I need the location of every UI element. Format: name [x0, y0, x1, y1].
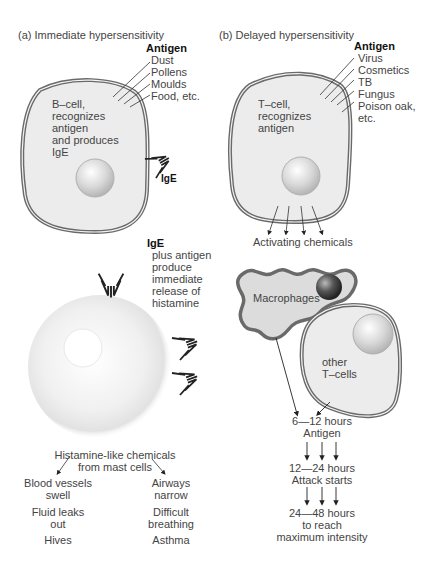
t-cell-label-line: T–cell, — [258, 98, 311, 110]
ige-antibody-icon — [172, 365, 201, 395]
panel-a-title: (a) Immediate hypersensitivity — [18, 29, 164, 41]
antigen-item: Moulds — [151, 78, 200, 90]
timeline-line: Attack starts — [262, 474, 382, 486]
antigen-list-b: Virus Cosmetics TB Fungus Poison oak, et… — [358, 52, 415, 124]
b-cell-label-line: recognizes — [52, 110, 119, 122]
antigen-item: Food, etc. — [151, 90, 200, 102]
antigen-heading-b: Antigen — [354, 40, 395, 52]
effect-line: breathing — [141, 518, 201, 530]
timeline-line: to reach — [262, 519, 382, 531]
timeline-line: 24—48 hours — [262, 507, 382, 519]
histamine-source-line: from mast cells — [40, 461, 190, 473]
mast-cell — [28, 295, 172, 439]
timeline-stage-3: 24—48 hours to reach maximum intensity — [262, 507, 382, 543]
b-cell-label: B–cell, recognizes antigen and produces … — [52, 98, 119, 158]
ige-heading: IgE — [147, 237, 164, 249]
antigen-item: TB — [358, 76, 415, 88]
antigen-item: Fungus — [358, 88, 415, 100]
effect-line: narrow — [141, 489, 201, 501]
other-t-cells-line: T–cells — [322, 368, 357, 380]
ige-description-line: immediate — [152, 273, 211, 285]
antigen-heading-a: Antigen — [146, 42, 187, 54]
b-cell-label-line: B–cell, — [52, 98, 119, 110]
b-cell-label-line: IgE — [52, 146, 119, 158]
effect-line: Asthma — [141, 534, 201, 546]
timeline-line: Antigen — [262, 427, 382, 439]
effect-line: Airways — [141, 477, 201, 489]
antigen-item: Dust — [151, 54, 200, 66]
timeline-line: 12—24 hours — [262, 462, 382, 474]
effect-line: Blood vessels — [18, 477, 98, 489]
histamine-source-line: Histamine-like chemicals — [40, 449, 190, 461]
other-t-cells-line: other — [322, 356, 357, 368]
b-cell-label-line: and produces — [52, 134, 119, 146]
panel-b-title: (b) Delayed hypersensitivity — [219, 29, 354, 41]
antigen-item: Pollens — [151, 66, 200, 78]
effect-line: swell — [18, 489, 98, 501]
effect-line: Fluid leaks — [18, 506, 98, 518]
t-cell-label-line: recognizes — [258, 110, 311, 122]
other-t-cell-nucleus — [353, 314, 393, 354]
activating-chemicals-label: Activating chemicals — [253, 236, 353, 248]
antigen-list-a: Dust Pollens Moulds Food, etc. — [151, 54, 200, 102]
timeline-stage-1: 6—12 hours Antigen — [262, 415, 382, 439]
mast-cell-nucleus — [64, 329, 102, 367]
ige-antibody-icon — [99, 274, 124, 298]
t-cell-label: T–cell, recognizes antigen — [258, 98, 311, 134]
ige-description-line: release of — [152, 285, 211, 297]
effect-line: Hives — [18, 534, 98, 546]
macrophage-label: Macrophages — [253, 292, 320, 304]
histamine-source-label: Histamine-like chemicals from mast cells — [40, 449, 190, 473]
effect-line: out — [18, 518, 98, 530]
timeline-line: maximum intensity — [262, 531, 382, 543]
ige-label: IgE — [161, 173, 177, 185]
antigen-item: Virus — [358, 52, 415, 64]
other-t-cells-label: other T–cells — [322, 356, 357, 380]
ige-description-line: plus antigen — [152, 249, 211, 261]
antigen-item: etc. — [358, 112, 415, 124]
t-cell-label-line: antigen — [258, 122, 311, 134]
effect-line: Difficult — [141, 506, 201, 518]
b-cell-nucleus — [76, 159, 114, 197]
antigen-item: Cosmetics — [358, 64, 415, 76]
left-effects: Blood vessels swell Fluid leaks out Hive… — [18, 477, 98, 546]
timeline-line: 6—12 hours — [262, 415, 382, 427]
t-cell-nucleus — [282, 157, 320, 195]
ige-description-line: histamine — [152, 297, 211, 309]
ige-antibody-icon — [172, 330, 201, 360]
timeline-stage-2: 12—24 hours Attack starts — [262, 462, 382, 486]
right-effects: Airways narrow Difficult breathing Asthm… — [141, 477, 201, 546]
ige-description: plus antigen produce immediate release o… — [152, 249, 211, 309]
ige-description-line: produce — [152, 261, 211, 273]
b-cell-label-line: antigen — [52, 122, 119, 134]
t-cell — [230, 74, 350, 222]
antigen-item: Poison oak, — [358, 100, 415, 112]
